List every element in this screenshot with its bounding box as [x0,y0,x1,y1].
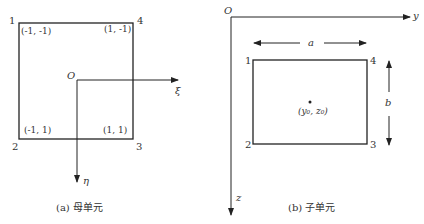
xi-axis-label: ξ [175,86,181,96]
center-point [309,101,312,104]
origin-label-b: O [224,6,232,16]
height-label: b [385,98,391,108]
node-3-coord: (1, 1) [103,126,127,135]
node-3-label-b: 3 [370,140,376,150]
z-axis-label: z [236,193,241,203]
center-coord-label: (y₀, z₀) [298,107,328,116]
node-4-label: 4 [137,16,143,26]
parent-element-square [19,23,133,139]
eta-axis-label: η [83,176,89,186]
y-axis-label: y [413,11,419,21]
caption-a: (a) 母单元 [56,203,103,213]
node-1-label-b: 1 [245,56,251,66]
caption-b: (b) 子单元 [288,203,335,213]
width-label: a [308,38,314,48]
diagram-canvas [0,0,424,224]
node-3-label: 3 [136,142,142,152]
node-2-label: 2 [12,142,18,152]
parent-element-figure [19,23,178,182]
origin-label-a: O [67,71,75,81]
sub-element-figure [231,17,410,215]
node-1-label: 1 [9,16,15,26]
node-4-label-b: 4 [370,56,376,66]
node-1-coord: (-1, -1) [21,27,51,36]
node-2-label-b: 2 [245,140,251,150]
node-2-coord: (-1, 1) [24,126,51,135]
node-4-coord: (1, -1) [104,25,131,34]
